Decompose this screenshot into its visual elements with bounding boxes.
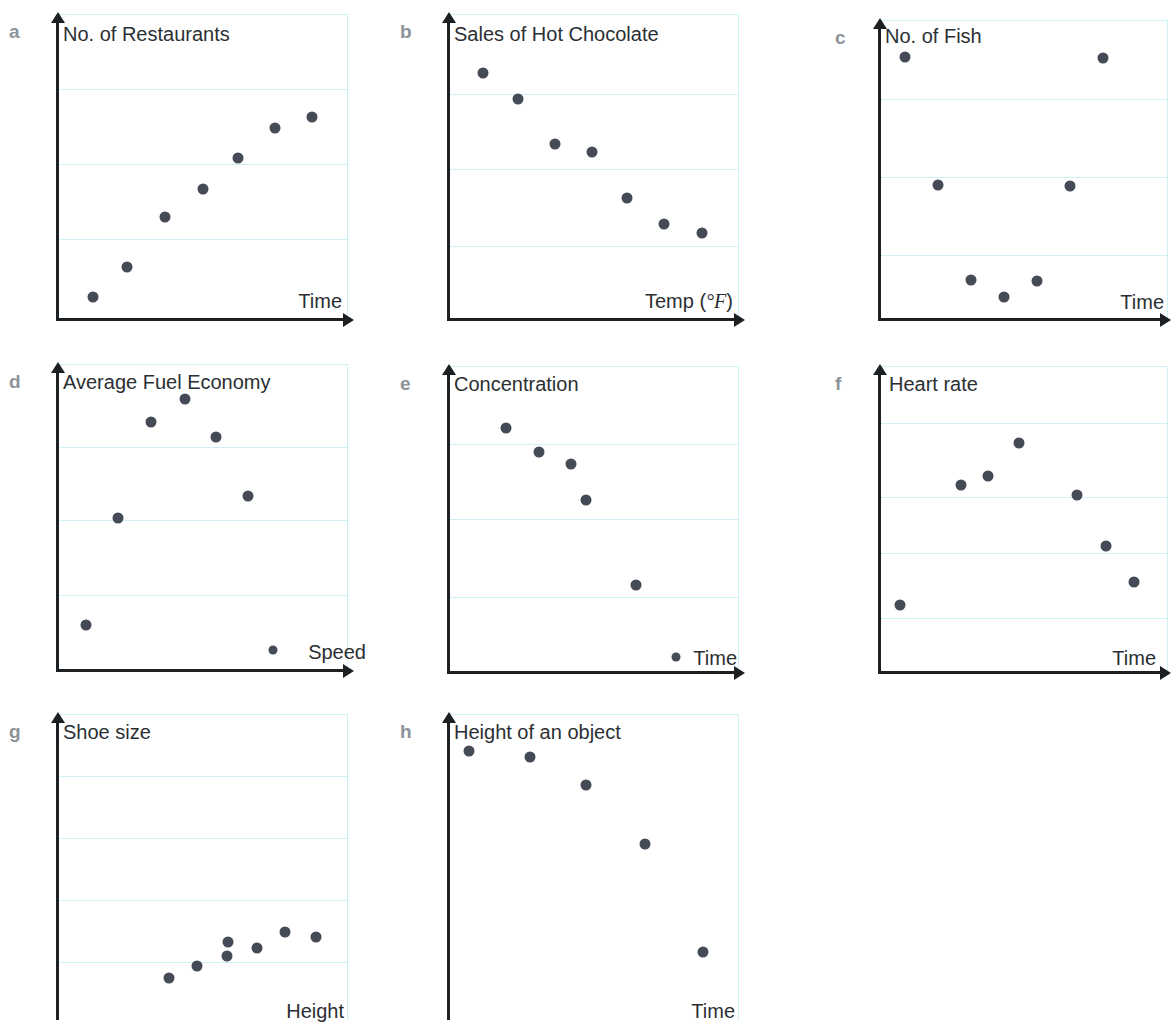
plot-area-e: Concentration Time	[448, 366, 739, 672]
data-point	[566, 459, 577, 470]
data-point	[222, 951, 233, 962]
panel-letter-e: e	[400, 374, 411, 393]
data-point	[956, 480, 967, 491]
y-axis-label-g: Shoe size	[63, 722, 151, 742]
y-axis-h	[447, 721, 450, 1020]
data-point	[622, 193, 633, 204]
legend-marker-e	[672, 653, 681, 662]
data-point	[1014, 438, 1025, 449]
data-point	[113, 513, 124, 524]
data-point	[164, 973, 175, 984]
x-axis-arrow-icon	[343, 664, 354, 678]
x-axis-arrow-icon	[343, 313, 354, 327]
x-axis-b	[447, 318, 735, 321]
x-axis-label-e: Time	[693, 648, 737, 668]
data-point	[88, 292, 99, 303]
data-point	[1065, 181, 1076, 192]
data-point	[280, 927, 291, 938]
plot-area-d: Average Fuel Economy Speed	[57, 364, 348, 670]
data-point	[698, 947, 709, 958]
panel-letter-d: d	[9, 372, 21, 391]
y-axis-f	[878, 373, 881, 673]
data-point	[525, 752, 536, 763]
gridlines-e	[448, 366, 739, 672]
y-axis-b	[447, 21, 450, 321]
y-axis-c	[878, 27, 881, 321]
data-point	[122, 262, 133, 273]
gridlines-f	[879, 366, 1168, 672]
data-point	[659, 219, 670, 230]
data-point	[1129, 577, 1140, 588]
plot-area-b: Sales of Hot Chocolate Temp (°F)	[448, 14, 739, 320]
data-point	[146, 417, 157, 428]
data-point	[581, 780, 592, 791]
data-point	[501, 423, 512, 434]
x-axis-arrow-icon	[734, 313, 745, 327]
data-point	[697, 228, 708, 239]
data-point	[307, 112, 318, 123]
gridlines-d	[57, 364, 348, 670]
data-point	[233, 153, 244, 164]
y-axis-a	[56, 21, 59, 321]
x-axis-f	[878, 671, 1161, 674]
data-point	[513, 94, 524, 105]
data-point	[270, 123, 281, 134]
x-axis-e	[447, 671, 735, 674]
panel-letter-g: g	[9, 722, 21, 741]
y-axis-label-c: No. of Fish	[885, 26, 982, 46]
data-point	[478, 68, 489, 79]
x-axis-label-d: Speed	[308, 642, 366, 662]
panel-letter-h: h	[400, 722, 412, 741]
plot-area-g: Shoe size Height	[57, 714, 348, 1020]
gridlines-h	[448, 714, 739, 1020]
x-axis-label-b: Temp (°F)	[645, 291, 733, 311]
x-axis-c	[878, 318, 1161, 321]
panel-letter-c: c	[835, 28, 846, 47]
y-axis-label-a: No. of Restaurants	[63, 24, 230, 44]
y-axis-e	[447, 373, 450, 673]
data-point	[550, 139, 561, 150]
data-point	[999, 292, 1010, 303]
x-axis-label-a: Time	[298, 291, 342, 311]
data-point	[1098, 53, 1109, 64]
data-point	[160, 212, 171, 223]
y-axis-label-f: Heart rate	[889, 374, 978, 394]
x-axis-arrow-icon	[734, 666, 745, 680]
data-point	[180, 394, 191, 405]
plot-area-a: No. of Restaurants Time	[57, 14, 348, 320]
panel-letter-f: f	[835, 374, 841, 393]
y-axis-label-b: Sales of Hot Chocolate	[454, 24, 659, 44]
gridlines-b	[448, 14, 739, 320]
plot-area-c: No. of Fish Time	[879, 20, 1168, 320]
data-point	[534, 447, 545, 458]
plot-area-h: Height of an object Time	[448, 714, 739, 1020]
data-point	[311, 932, 322, 943]
data-point	[581, 495, 592, 506]
data-point	[1072, 490, 1083, 501]
legend-marker-d	[269, 646, 278, 655]
x-axis-label-f: Time	[1112, 648, 1156, 668]
data-point	[243, 491, 254, 502]
data-point	[895, 600, 906, 611]
plot-area-f: Heart rate Time	[879, 366, 1168, 672]
data-point	[640, 839, 651, 850]
gridlines-a	[57, 14, 348, 320]
data-point	[933, 180, 944, 191]
data-point	[966, 275, 977, 286]
data-point	[252, 943, 263, 954]
data-point	[81, 620, 92, 631]
panel-letter-a: a	[9, 22, 20, 41]
y-axis-label-d: Average Fuel Economy	[63, 372, 271, 392]
data-point	[1101, 541, 1112, 552]
data-point	[198, 184, 209, 195]
degrees-fahrenheit-unit: °F	[706, 290, 726, 312]
x-axis-arrow-icon	[1160, 313, 1171, 327]
data-point	[464, 746, 475, 757]
y-axis-d	[56, 371, 59, 671]
y-axis-g	[56, 721, 59, 1020]
y-axis-label-h: Height of an object	[454, 722, 621, 742]
x-axis-label-c: Time	[1120, 292, 1164, 312]
data-point	[983, 471, 994, 482]
gridlines-c	[879, 20, 1168, 320]
y-axis-label-e: Concentration	[454, 374, 579, 394]
